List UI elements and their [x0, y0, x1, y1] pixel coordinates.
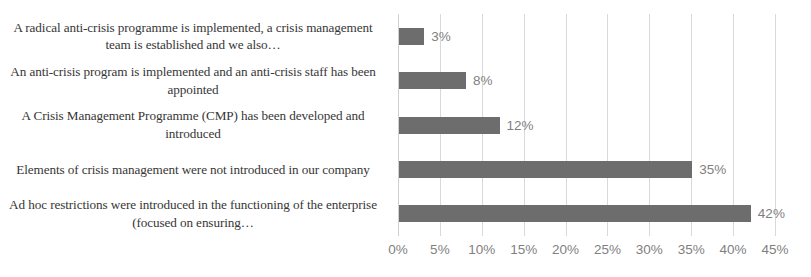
- bar: [399, 72, 466, 89]
- x-tick-label: 30%: [636, 241, 663, 259]
- gridline-30pct: [649, 14, 650, 236]
- bar: [399, 161, 692, 178]
- x-axis-tick-labels: 0%5%10%15%20%25%30%35%40%45%: [398, 241, 775, 263]
- plot-area: 3%8%12%35%42%: [398, 14, 775, 236]
- x-tick-label: 40%: [720, 241, 747, 259]
- bar-chart: A radical anti-crisis programme is imple…: [0, 0, 811, 277]
- x-tick-label: 15%: [510, 241, 537, 259]
- bar: [399, 205, 751, 222]
- bar-value-label: 12%: [507, 117, 534, 134]
- category-label: Ad hoc restrictions were introduced in t…: [0, 192, 392, 236]
- category-label: An anti-crisis program is implemented an…: [0, 58, 392, 102]
- gridline-40pct: [733, 14, 734, 236]
- category-label: Elements of crisis management were not i…: [0, 147, 392, 191]
- x-tick-label: 5%: [430, 241, 450, 259]
- gridline-20pct: [566, 14, 567, 236]
- x-tick-label: 25%: [594, 241, 621, 259]
- bar-value-label: 8%: [473, 72, 493, 89]
- bar: [399, 28, 424, 45]
- x-tick-label: 10%: [468, 241, 495, 259]
- x-tick-label: 20%: [552, 241, 579, 259]
- x-tick-label: 35%: [678, 241, 705, 259]
- gridline-35pct: [691, 14, 692, 236]
- gridline-45pct: [775, 14, 776, 236]
- category-label: A radical anti-crisis programme is imple…: [0, 14, 392, 58]
- category-axis-labels: A radical anti-crisis programme is imple…: [0, 14, 394, 236]
- gridline-25pct: [607, 14, 608, 236]
- bar-value-label: 35%: [699, 161, 726, 178]
- bar-value-label: 42%: [758, 205, 785, 222]
- x-tick-label: 0%: [388, 241, 408, 259]
- x-tick-label: 45%: [761, 241, 788, 259]
- category-label: A Crisis Management Programme (CMP) has …: [0, 103, 392, 147]
- bar: [399, 117, 500, 134]
- bar-value-label: 3%: [431, 28, 451, 45]
